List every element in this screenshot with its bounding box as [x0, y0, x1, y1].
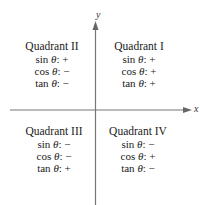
sign-row-cos: cos θ: + [108, 65, 170, 77]
sign-row-cos: cos θ: − [20, 65, 84, 77]
sign-row-tan: tan θ: − [106, 162, 170, 174]
sign-row-cos: cos θ: + [106, 150, 170, 162]
sign-row-sin: sin θ: + [108, 53, 170, 65]
sign-value: − [148, 138, 154, 150]
quadrant-title: Quadrant III [22, 125, 86, 137]
sign-row-sin: sin θ: − [22, 138, 86, 150]
sign-value: + [65, 162, 71, 174]
sign-value: − [63, 77, 69, 89]
function-name: tan [35, 77, 48, 89]
sign-value: − [64, 138, 70, 150]
quadrant-ii-block: Quadrant II sin θ: + cos θ: − tan θ: − [20, 40, 84, 89]
theta-symbol: θ [51, 53, 56, 65]
function-name: cos [35, 65, 50, 77]
theta-symbol: θ [138, 77, 143, 89]
function-name: sin [122, 53, 135, 65]
sign-row-tan: tan θ: + [108, 77, 170, 89]
sign-value: + [150, 77, 156, 89]
function-name: sin [121, 138, 134, 150]
theta-symbol: θ [51, 77, 56, 89]
theta-symbol: θ [138, 53, 143, 65]
theta-symbol: θ [53, 162, 58, 174]
quadrant-title: Quadrant IV [106, 125, 170, 137]
theta-symbol: θ [53, 138, 58, 150]
x-axis-label: x [194, 104, 198, 114]
theta-symbol: θ [137, 162, 142, 174]
quadrant-title: Quadrant I [108, 40, 170, 52]
sign-value: + [149, 150, 155, 162]
coordinate-axes [0, 0, 200, 205]
y-axis-arrow-icon [93, 21, 99, 30]
sign-row-sin: sin θ: − [106, 138, 170, 150]
sign-row-tan: tan θ: + [22, 162, 86, 174]
quadrant-iv-block: Quadrant IV sin θ: − cos θ: + tan θ: − [106, 125, 170, 174]
y-axis-label: y [96, 10, 100, 20]
function-name: tan [122, 77, 135, 89]
sign-value: − [149, 162, 155, 174]
theta-symbol: θ [54, 150, 59, 162]
function-name: tan [37, 162, 50, 174]
sign-value: − [63, 65, 69, 77]
quadrant-i-block: Quadrant I sin θ: + cos θ: + tan θ: + [108, 40, 170, 89]
sign-row-cos: cos θ: − [22, 150, 86, 162]
quadrant-iii-block: Quadrant III sin θ: − cos θ: − tan θ: + [22, 125, 86, 174]
theta-symbol: θ [139, 65, 144, 77]
theta-symbol: θ [137, 138, 142, 150]
function-name: sin [35, 53, 48, 65]
function-name: cos [122, 65, 137, 77]
theta-symbol: θ [52, 65, 57, 77]
sign-row-sin: sin θ: + [20, 53, 84, 65]
sign-row-tan: tan θ: − [20, 77, 84, 89]
x-axis-arrow-icon [183, 107, 192, 113]
theta-symbol: θ [138, 150, 143, 162]
sign-value: + [149, 53, 155, 65]
function-name: tan [121, 162, 134, 174]
sign-value: + [62, 53, 68, 65]
sign-value: − [65, 150, 71, 162]
quadrant-title: Quadrant II [20, 40, 84, 52]
function-name: sin [37, 138, 50, 150]
function-name: cos [121, 150, 136, 162]
sign-value: + [150, 65, 156, 77]
function-name: cos [37, 150, 52, 162]
